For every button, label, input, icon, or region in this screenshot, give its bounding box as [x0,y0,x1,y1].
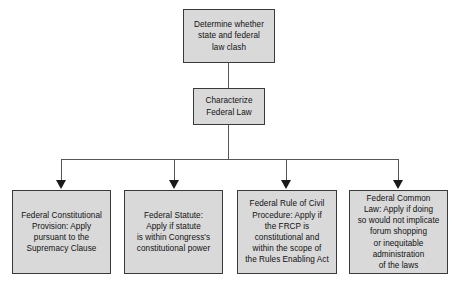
node-federal-constitutional-provision: Federal Constitutional Provision: Apply … [12,190,111,274]
node-federal-constitutional-provision-label: Federal Constitutional Provision: Apply … [16,210,107,255]
connector-drop-branch-4 [398,159,399,181]
node-federal-common-law: Federal Common Law: Apply if doing so wo… [349,190,448,274]
arrowhead-icon-branch-2 [169,180,179,189]
arrowhead-icon-branch-3 [281,180,291,189]
node-federal-rule-civil-procedure: Federal Rule of Civil Procedure: Apply i… [237,190,337,274]
node-determine-law-clash-label: Determine whether state and federal law … [187,19,271,53]
flowchart-diagram: Determine whether state and federal law … [0,0,459,290]
connector-characterize-to-bus [228,125,229,159]
node-federal-statute: Federal Statute: Apply if statute is wit… [124,190,223,274]
arrowhead-icon-branch-1 [56,180,66,189]
connector-drop-branch-1 [61,159,62,181]
node-characterize-federal-law-label: Characterize Federal Law [197,95,261,117]
node-determine-law-clash: Determine whether state and federal law … [183,9,275,63]
connector-horizontal-bus [61,159,399,160]
node-federal-rule-civil-procedure-label: Federal Rule of Civil Procedure: Apply i… [241,198,333,265]
connector-root-to-characterize [228,63,229,88]
node-characterize-federal-law: Characterize Federal Law [193,88,265,125]
connector-drop-branch-2 [174,159,175,181]
arrowhead-icon-branch-4 [393,180,403,189]
node-federal-statute-label: Federal Statute: Apply if statute is wit… [128,210,219,255]
node-federal-common-law-label: Federal Common Law: Apply if doing so wo… [353,193,444,271]
connector-drop-branch-3 [286,159,287,181]
